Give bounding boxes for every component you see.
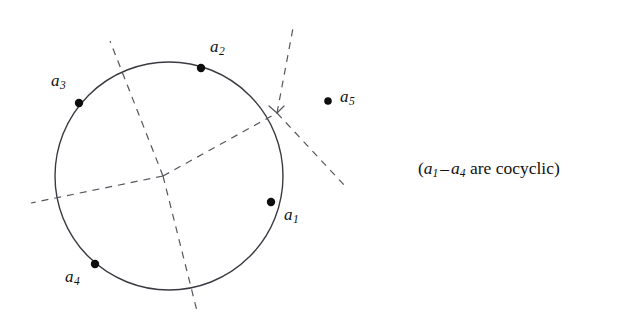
point-label-a4-base: a: [65, 267, 74, 286]
caption-close-paren: ): [554, 158, 560, 178]
circumscribed-circle: [55, 62, 283, 290]
caption-term2-base: a: [451, 158, 460, 178]
point-label-a2-base: a: [210, 37, 219, 56]
point-label-a4-sub: 4: [74, 275, 80, 287]
dashed-branch-up-right: [277, 28, 293, 113]
point-group: [75, 64, 332, 268]
junction-stub-arm-left: [269, 106, 277, 113]
dashed-branch-down-right: [163, 176, 197, 311]
caption-text: (a1–a4 are cocyclic): [418, 160, 560, 180]
point-label-a2: a2: [210, 38, 225, 58]
point-label-a1-sub: 1: [293, 213, 299, 225]
point-a3: [75, 99, 83, 107]
point-a2: [197, 64, 205, 72]
point-label-a3-base: a: [51, 71, 60, 90]
point-label-a5: a5: [340, 88, 355, 108]
dashed-branch-far-right: [277, 113, 345, 186]
point-label-a1: a1: [284, 206, 299, 226]
dashed-branch-to-right-junction: [163, 113, 277, 176]
dashed-branch-up-left: [110, 41, 163, 176]
figure-canvas: a1 a2 a3 a4 a5 (a1–a4 are cocyclic): [0, 0, 629, 322]
junction-y-mark: [269, 106, 284, 113]
point-label-a2-sub: 2: [219, 45, 225, 57]
point-a4: [91, 260, 99, 268]
caption-tail: are cocyclic: [466, 158, 554, 178]
point-label-a3-sub: 3: [60, 79, 66, 91]
caption-term1-base: a: [424, 158, 433, 178]
point-a5: [324, 97, 332, 105]
point-label-a3: a3: [51, 72, 66, 92]
point-label-a5-base: a: [340, 87, 349, 106]
point-label-a5-sub: 5: [349, 95, 355, 107]
caption-dash: –: [438, 158, 451, 178]
point-a1: [267, 198, 275, 206]
point-label-a4: a4: [65, 268, 80, 288]
point-label-a1-base: a: [284, 205, 293, 224]
dashed-branch-left: [31, 176, 163, 203]
